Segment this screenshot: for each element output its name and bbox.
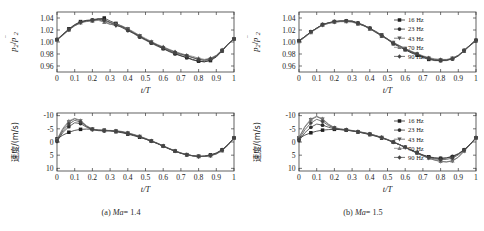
x-tick-label: 0.5 (141, 74, 151, 83)
x-tick-label: 0.1 (70, 173, 80, 182)
x-tick-label: 0.9 (454, 173, 464, 182)
y-tick-label: -10 (43, 111, 53, 120)
x-tick-label: 1 (474, 74, 478, 83)
caption-b-symbol: Ma (355, 208, 366, 217)
y-axis-title: p2/p‾2 (4, 32, 19, 53)
x-tick-label: 1 (474, 173, 478, 182)
legend-label: 16 Hz (408, 117, 424, 124)
x-tick-label: 0.8 (194, 173, 204, 182)
x-tick-label: 0.7 (176, 173, 186, 182)
data-point (321, 123, 325, 127)
x-tick-label: 0.3 (105, 173, 115, 182)
x-tick-label: 0.3 (347, 173, 357, 182)
x-axis-title: t/T (141, 185, 152, 194)
panel-b-pressure: 00.10.20.30.40.50.60.70.80.911.041.021.0… (242, 0, 484, 105)
x-tick-label: 0.5 (141, 173, 151, 182)
x-tick-label: 0.2 (330, 173, 340, 182)
y-tick-label: 0.98 (40, 50, 53, 59)
x-tick-label: 1 (232, 173, 236, 182)
x-tick-label: 0.1 (312, 74, 322, 83)
x-tick-label: 0 (55, 173, 59, 182)
caption-panel-a: (a) Ma= 1.4 (0, 208, 242, 217)
x-tick-label: 0.6 (400, 74, 410, 83)
x-axis-title: t/T (141, 86, 152, 95)
y-tick-label: 1.02 (40, 26, 53, 35)
svg-text:速度/(m/s): 速度/(m/s) (252, 122, 262, 162)
svg-text:p2/p‾2: p2/p‾2 (246, 32, 261, 53)
chart-a-velocity: 00.10.20.30.40.50.60.70.80.91-10-50510t/… (0, 103, 242, 203)
data-point (79, 128, 83, 132)
panel-b-velocity: 00.10.20.30.40.50.60.70.80.91-10-50510t/… (242, 103, 484, 203)
legend-marker-square (398, 18, 402, 22)
y-tick-label: 5 (292, 151, 296, 160)
chart-b-pressure: 00.10.20.30.40.50.60.70.80.911.041.021.0… (242, 0, 484, 105)
svg-text:p2/p‾2: p2/p‾2 (4, 32, 19, 53)
panel-a-velocity: 00.10.20.30.40.50.60.70.80.91-10-50510t/… (0, 103, 242, 203)
caption-panel-b: (b) Ma= 1.5 (242, 208, 484, 217)
legend-marker-circle (398, 128, 402, 132)
y-tick-label: -10 (285, 111, 295, 120)
x-tick-label: 0.8 (436, 74, 446, 83)
legend-marker-square (398, 119, 402, 123)
x-tick-label: 0.3 (347, 74, 357, 83)
svg-text:速度/(m/s): 速度/(m/s) (10, 122, 20, 162)
x-axis-title: t/T (383, 86, 394, 95)
legend-label: 43 Hz (408, 35, 424, 42)
caption-a-prefix: (a) (102, 208, 111, 217)
data-point (67, 130, 71, 134)
chart-b-velocity: 00.10.20.30.40.50.60.70.80.91-10-50510t/… (242, 103, 484, 203)
y-tick-label: 1.02 (282, 26, 295, 35)
x-tick-label: 0.4 (123, 173, 133, 182)
legend-label: 23 Hz (408, 25, 424, 32)
y-tick-label: 1.04 (282, 14, 295, 23)
legend-label: 43 Hz (408, 136, 424, 143)
x-tick-label: 0.7 (176, 74, 186, 83)
legend-label: 90 Hz (408, 53, 424, 60)
legend-label: 70 Hz (408, 44, 424, 51)
y-tick-label: -5 (289, 125, 296, 134)
x-tick-label: 0.6 (158, 173, 168, 182)
plot-frame (57, 113, 234, 171)
x-tick-label: 0.3 (105, 74, 115, 83)
legend-marker-circle (398, 27, 402, 31)
x-tick-label: 0.2 (330, 74, 340, 83)
y-axis-title: 速度/(m/s) (10, 122, 20, 162)
y-tick-label: -5 (47, 125, 54, 134)
x-tick-label: 0.6 (400, 173, 410, 182)
data-point (309, 125, 313, 129)
x-tick-label: 0.2 (88, 74, 98, 83)
x-tick-label: 0.1 (312, 173, 322, 182)
x-tick-label: 0.1 (70, 74, 80, 83)
chart-a-pressure: 00.10.20.30.40.50.60.70.80.911.041.021.0… (0, 0, 242, 105)
x-tick-label: 0 (297, 173, 301, 182)
legend-label: 23 Hz (408, 126, 424, 133)
x-tick-label: 0 (297, 74, 301, 83)
plot-frame (299, 12, 476, 72)
legend-label: 16 Hz (408, 16, 424, 23)
x-tick-label: 0.4 (123, 74, 133, 83)
figure-root: 00.10.20.30.40.50.60.70.80.911.041.021.0… (0, 0, 484, 231)
y-tick-label: 0.96 (40, 62, 53, 71)
y-tick-label: 0.98 (282, 50, 295, 59)
x-tick-label: 0.7 (418, 74, 428, 83)
x-tick-label: 0.9 (212, 173, 222, 182)
x-tick-label: 0.9 (454, 74, 464, 83)
x-tick-label: 0.4 (365, 74, 375, 83)
caption-b-value: = 1.5 (366, 208, 383, 217)
y-tick-label: 0 (292, 138, 296, 147)
caption-b-prefix: (b) (343, 208, 353, 217)
x-tick-label: 0.2 (88, 173, 98, 182)
data-point (321, 128, 325, 132)
legend-label: 70 Hz (408, 145, 424, 152)
data-point (309, 131, 313, 135)
x-tick-label: 0.9 (212, 74, 222, 83)
caption-a-value: = 1.4 (124, 208, 141, 217)
y-tick-label: 10 (46, 164, 54, 173)
x-tick-label: 0.7 (418, 173, 428, 182)
y-tick-label: 5 (50, 151, 54, 160)
x-tick-label: 0.4 (365, 173, 375, 182)
x-axis-title: t/T (383, 185, 394, 194)
y-axis-title: 速度/(m/s) (252, 122, 262, 162)
y-tick-label: 1.00 (282, 38, 295, 47)
x-tick-label: 0 (55, 74, 59, 83)
